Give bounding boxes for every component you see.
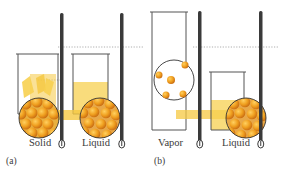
thermometer-icon bbox=[59, 13, 65, 148]
thermometer-icon bbox=[197, 11, 203, 148]
label-liquid-a: Liquid bbox=[82, 137, 110, 148]
thermometer-icon bbox=[119, 13, 125, 148]
phase-diagram-figure: Solid Liquid (a) Vapor Liquid (b) bbox=[0, 0, 288, 179]
vapor-particles-magnifier bbox=[154, 60, 194, 100]
label-solid: Solid bbox=[29, 137, 51, 148]
panel-b bbox=[150, 11, 278, 148]
label-liquid-b: Liquid bbox=[222, 137, 250, 148]
panel-a bbox=[16, 13, 145, 148]
label-vapor: Vapor bbox=[158, 137, 183, 148]
panel-tag-a: (a) bbox=[6, 156, 17, 166]
panel-tag-b: (b) bbox=[154, 156, 165, 166]
